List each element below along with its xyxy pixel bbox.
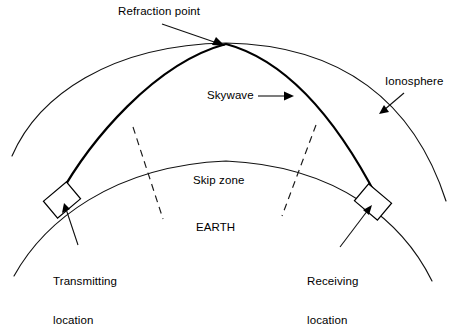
ionosphere-leader	[379, 93, 404, 114]
refraction-point-leader	[162, 24, 225, 46]
transmitting-location-label: Transmitting location	[53, 249, 117, 324]
earth-label: EARTH	[196, 221, 235, 234]
skywave-label: Skywave	[207, 89, 254, 102]
skywave-propagation-diagram: Refraction point Skywave Ionosphere Skip…	[0, 0, 460, 324]
skip-zone-boundary-right	[282, 125, 316, 216]
receiving-leader	[340, 205, 372, 247]
receiving-station-box[interactable]	[354, 184, 391, 220]
transmitting-station-box[interactable]	[43, 182, 80, 218]
arrow-icon	[212, 37, 225, 46]
transmitting-location-line1: Transmitting	[53, 275, 117, 288]
skywave-leader	[258, 92, 294, 101]
arrow-icon	[284, 92, 294, 101]
transmitting-leader	[62, 203, 78, 245]
refraction-point-label: Refraction point	[118, 5, 200, 18]
ionosphere-label: Ionosphere	[385, 75, 444, 88]
transmitting-station[interactable]	[43, 182, 80, 218]
receiving-location-line2: location	[307, 314, 358, 324]
transmitting-location-line2: location	[53, 314, 117, 324]
receiving-location-line1: Receiving	[307, 275, 358, 288]
skip-zone-boundary-left	[133, 127, 163, 219]
skip-zone-label: Skip zone	[193, 174, 244, 187]
receiving-station[interactable]	[354, 184, 391, 220]
receiving-location-label: Receiving location	[307, 249, 358, 324]
